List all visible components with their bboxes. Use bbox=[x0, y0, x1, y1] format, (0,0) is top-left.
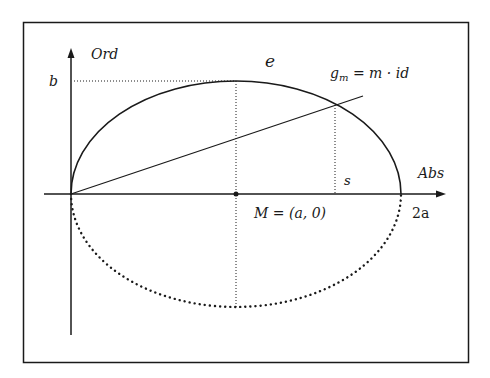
segment-s-label: s bbox=[344, 173, 351, 188]
ellipse-label-e: e bbox=[265, 51, 275, 71]
center-m-label: M = (a, 0) bbox=[253, 205, 326, 221]
y-axis-label: Ord bbox=[91, 46, 118, 62]
b-label: b bbox=[49, 73, 58, 89]
x-axis-label: Abs bbox=[416, 165, 444, 181]
two-a-label: 2a bbox=[412, 205, 429, 221]
x-axis-arrow-icon bbox=[436, 191, 446, 198]
center-point-m bbox=[234, 192, 239, 197]
ellipse-diagram: Ord b e gm = m · id s Abs M = (a, 0) 2a bbox=[0, 0, 490, 378]
line-gm bbox=[71, 96, 363, 194]
line-gm-label: gm = m · id bbox=[330, 65, 409, 83]
y-axis-arrow-icon bbox=[68, 48, 75, 58]
